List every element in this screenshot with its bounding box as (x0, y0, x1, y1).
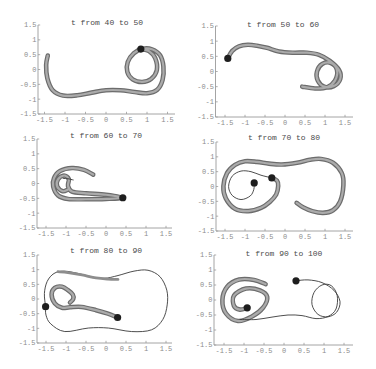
thick-trajectory-line (223, 159, 343, 213)
y-tick-label: -1 (27, 210, 35, 218)
x-tick-label: 0.5 (120, 345, 133, 353)
y-tick-label: 1.5 (23, 135, 36, 143)
y-tick-label: -1.5 (19, 224, 36, 232)
y-tick-label: -1.5 (196, 341, 213, 349)
y-tick-label: 1.5 (23, 251, 36, 259)
panel-title: t from 40 to 50 (71, 18, 143, 27)
x-tick-label: 1 (144, 345, 148, 353)
x-tick-label: -0.5 (257, 233, 274, 241)
x-tick-label: 0.5 (299, 233, 312, 241)
x-tick-label: -0.5 (257, 119, 274, 127)
x-tick-label: 1.5 (338, 347, 351, 355)
trajectory-plot-grid: t from 40 to 50 1.510.50-0.5-1-1.5-1.5-1… (0, 0, 376, 369)
x-tick-label: -1.5 (38, 345, 55, 353)
y-tick-label: -0.5 (196, 311, 213, 319)
x-tick-label: -1 (62, 345, 70, 353)
y-tick-label: 1.5 (24, 21, 37, 29)
y-tick-label: 0 (31, 180, 35, 188)
x-tick-label: -0.5 (77, 116, 94, 124)
y-tick-label: -0.5 (198, 198, 215, 206)
panel-title: t from 50 to 60 (247, 20, 319, 29)
y-tick-label: -1 (206, 98, 214, 106)
x-tick-label: 0.5 (299, 119, 312, 127)
x-tick-label: 0 (282, 347, 286, 355)
x-tick-label: -1 (241, 233, 249, 241)
panel-t-60-70: t from 60 to 70 1.510.50-0.5-1-1.5-1.5-1… (19, 131, 173, 238)
x-tick-label: 1.5 (161, 116, 174, 124)
y-tick-label: 1 (210, 38, 214, 46)
position-marker-dot (292, 277, 299, 284)
x-tick-label: -1.5 (36, 116, 53, 124)
position-marker-dot (42, 303, 49, 310)
y-tick-label: -1.5 (198, 227, 215, 235)
y-tick-label: -1.5 (197, 113, 214, 121)
x-tick-label: 0.5 (298, 347, 311, 355)
x-tick-label: -1 (240, 347, 248, 355)
panel-t-70-80: t from 70 to 80 1.510.50-0.5-1-1.5-1.5-1… (198, 133, 353, 241)
x-tick-label: 1.5 (160, 230, 173, 238)
y-tick-label: 0 (208, 296, 212, 304)
position-marker-dot (251, 179, 258, 186)
y-tick-label: -1 (28, 96, 36, 104)
y-tick-label: -1 (27, 325, 35, 333)
y-tick-label: 0.5 (24, 51, 37, 59)
y-tick-label: -1.5 (19, 339, 36, 347)
thick-trajectory-line (52, 287, 118, 318)
x-tick-label: -1.5 (217, 233, 234, 241)
y-tick-label: 0 (210, 183, 214, 191)
x-tick-label: -1.5 (38, 230, 55, 238)
position-marker-dot (137, 45, 144, 52)
position-marker-dot (114, 314, 121, 321)
panel-t-90-100: t from 90 to 100 1.510.50-0.5-1-1.5-1.5-… (196, 249, 353, 355)
y-tick-label: 0.5 (23, 281, 36, 289)
position-marker-dot (244, 304, 251, 311)
panel-title: t from 90 to 100 (246, 249, 323, 258)
x-tick-label: 0 (104, 230, 108, 238)
x-tick-label: 1 (323, 233, 327, 241)
x-tick-label: 1.5 (160, 345, 173, 353)
y-tick-label: 1 (208, 266, 212, 274)
y-tick-label: 1 (31, 150, 35, 158)
y-tick-label: 0.5 (200, 281, 213, 289)
y-tick-label: 1 (32, 36, 36, 44)
y-tick-label: 1.5 (201, 22, 214, 30)
x-tick-label: 0.5 (120, 230, 133, 238)
position-marker-dot (224, 55, 231, 62)
y-tick-label: -1 (204, 326, 212, 334)
panel-title: t from 70 to 80 (248, 133, 320, 142)
y-tick-label: -0.5 (20, 81, 37, 89)
x-tick-label: 0.5 (120, 116, 133, 124)
medium-trajectory-line (58, 272, 118, 280)
y-tick-label: 0.5 (201, 53, 214, 61)
y-tick-label: 0.5 (23, 165, 36, 173)
y-tick-label: 1 (210, 153, 214, 161)
y-tick-label: -1 (206, 213, 214, 221)
x-tick-label: 1.5 (339, 233, 352, 241)
thick-trajectory-outline (46, 48, 163, 96)
y-tick-label: 1.5 (202, 138, 215, 146)
x-tick-label: -0.5 (78, 345, 95, 353)
panel-t-40-50: t from 40 to 50 1.510.50-0.5-1-1.5-1.5-1… (20, 18, 175, 124)
y-tick-label: 0 (31, 295, 35, 303)
y-tick-label: 0.5 (202, 168, 215, 176)
panel-t-80-90: t from 80 to 90 1.510.50-0.5-1-1.5-1.5-1… (19, 246, 173, 353)
x-tick-label: -1 (61, 116, 69, 124)
x-tick-label: 0 (104, 345, 108, 353)
y-tick-label: 1 (31, 266, 35, 274)
x-tick-label: 1 (145, 116, 149, 124)
x-tick-label: 1 (144, 230, 148, 238)
y-tick-label: 0 (210, 68, 214, 76)
panel-title: t from 80 to 90 (70, 246, 142, 255)
y-tick-label: -0.5 (19, 195, 36, 203)
thick-trajectory-line (228, 45, 341, 89)
x-tick-label: -1 (241, 119, 249, 127)
x-tick-label: -1.5 (216, 347, 233, 355)
x-tick-label: -1 (62, 230, 70, 238)
x-tick-label: -1.5 (217, 119, 234, 127)
y-tick-label: -0.5 (197, 83, 214, 91)
y-tick-label: 1.5 (200, 251, 213, 259)
x-tick-label: 1 (322, 347, 326, 355)
panel-title: t from 60 to 70 (70, 131, 142, 140)
x-tick-label: 0 (283, 119, 287, 127)
x-tick-label: 0 (104, 116, 108, 124)
